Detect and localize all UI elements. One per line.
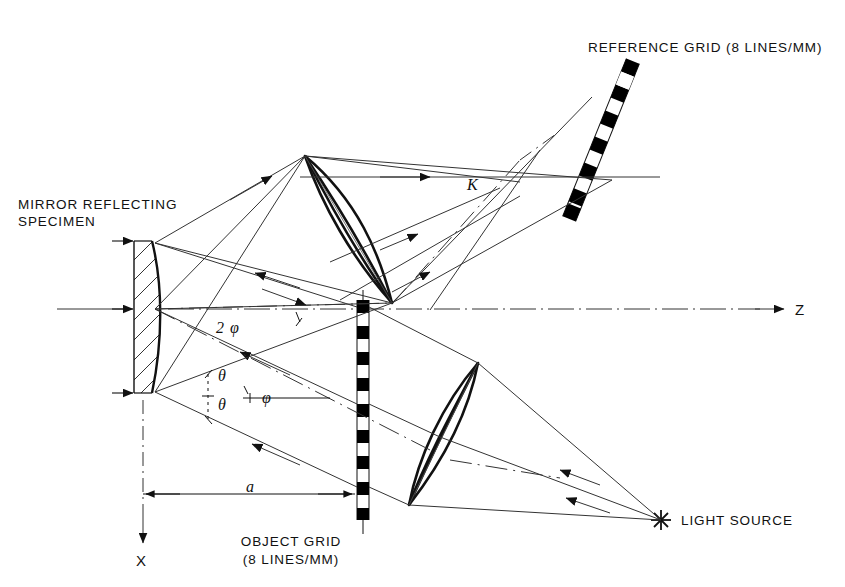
angle-phi: φ xyxy=(262,389,271,407)
mirror-incidence-arrows xyxy=(112,241,133,393)
mirror-label-line2: SPECIMEN xyxy=(18,214,96,229)
mirror-label-line1: MIRROR REFLECTING xyxy=(18,197,177,212)
lower-lens xyxy=(409,363,478,505)
object-grid-label-line1: OBJECT GRID xyxy=(241,534,341,549)
distance-a-label: a xyxy=(246,478,254,495)
axis-z-label: Z xyxy=(795,301,804,318)
reference-grid xyxy=(563,59,640,222)
illumination-rays xyxy=(155,243,661,520)
object-grid-label-line2: (8 LINES/MM) xyxy=(243,552,339,567)
point-k-label: K xyxy=(466,176,479,193)
light-source-label: LIGHT SOURCE xyxy=(681,513,793,528)
angle-theta-lower: θ xyxy=(218,396,226,413)
optical-diagram-figure: Z X xyxy=(0,0,845,587)
diagram-canvas: Z X xyxy=(0,0,845,587)
reference-grid-label: REFERENCE GRID (8 LINES/MM) xyxy=(588,40,822,55)
angle-two-phi-number: 2 xyxy=(216,319,224,336)
object-grid xyxy=(357,290,369,534)
angle-two-phi-symbol: φ xyxy=(230,319,239,337)
axis-x-label: X xyxy=(136,552,146,569)
upper-lens xyxy=(305,156,392,303)
angle-theta-upper: θ xyxy=(218,367,226,384)
